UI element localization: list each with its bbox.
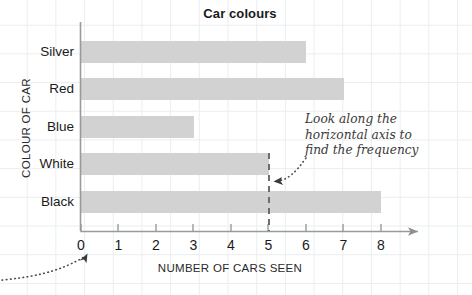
category-label-black: Black: [0, 194, 74, 209]
bar-white: [81, 153, 269, 175]
category-label-silver: Silver: [0, 44, 74, 59]
bar-black: [81, 191, 381, 213]
chart-title: Car colours: [150, 6, 330, 21]
x-axis-title: NUMBER OF CARS SEEN: [110, 262, 350, 274]
x-tick-8: 8: [370, 237, 392, 253]
x-tick-2: 2: [145, 237, 167, 253]
annotation-pointer-dotted: [277, 158, 306, 181]
bar-red: [81, 78, 344, 100]
x-tick-4: 4: [220, 237, 242, 253]
annotation-arrow-icon: [274, 177, 284, 185]
origin-arrow-icon: [80, 254, 88, 264]
x-tick-7: 7: [333, 237, 355, 253]
category-label-red: Red: [0, 81, 74, 96]
bar-silver: [81, 41, 306, 63]
x-tick-3: 3: [183, 237, 205, 253]
frequency-annotation: Look along the horizontal axis to find t…: [305, 112, 465, 159]
bar-blue: [81, 116, 194, 138]
x-tick-0: 0: [70, 237, 92, 253]
x-tick-5: 5: [258, 237, 280, 253]
x-axis-arrow-icon: [408, 227, 418, 236]
category-label-white: White: [0, 156, 74, 171]
x-tick-1: 1: [108, 237, 130, 253]
chart-canvas: Car colours COLOUR OF CAR NUMBER OF CARS…: [0, 0, 472, 295]
x-tick-6: 6: [295, 237, 317, 253]
origin-pointer-dotted: [0, 257, 84, 281]
x-axis-ticks: [81, 224, 381, 232]
annotation-line-2: horizontal axis to: [305, 128, 465, 144]
category-label-blue: Blue: [0, 119, 74, 134]
annotation-line-3: find the frequency: [305, 143, 465, 159]
annotation-line-1: Look along the: [305, 112, 465, 128]
